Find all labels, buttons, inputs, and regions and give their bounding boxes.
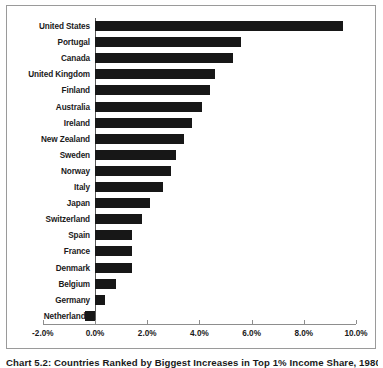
bar-row: Belgium <box>7 276 375 292</box>
tick-mark <box>356 320 357 324</box>
bar-row: Finland <box>7 82 375 98</box>
category-label: Germany <box>55 295 90 304</box>
bar-row: Italy <box>7 179 375 195</box>
x-tick-label: 4.0% <box>190 329 209 338</box>
category-label: Japan <box>67 199 90 208</box>
bar-row: Ireland <box>7 115 375 131</box>
bar <box>95 37 241 47</box>
category-label: New Zealand <box>41 134 90 143</box>
tick-mark <box>304 320 305 324</box>
bar-row: Japan <box>7 195 375 211</box>
tick-mark <box>199 320 200 324</box>
category-label: Netherlands <box>44 311 90 320</box>
x-tick-label: 2.0% <box>138 329 157 338</box>
category-label: Spain <box>68 231 90 240</box>
x-tick-label: 6.0% <box>242 329 261 338</box>
chart-figure: United StatesPortugalCanadaUnited Kingdo… <box>0 0 383 368</box>
bar <box>95 21 343 31</box>
category-label: Denmark <box>56 263 90 272</box>
bar-row: Canada <box>7 50 375 66</box>
bar <box>95 230 132 240</box>
bar-row: France <box>7 243 375 259</box>
category-label: France <box>64 247 90 256</box>
plot-area: United StatesPortugalCanadaUnited Kingdo… <box>7 6 375 348</box>
bar <box>95 118 192 128</box>
bar-row: Norway <box>7 163 375 179</box>
bar-row: New Zealand <box>7 131 375 147</box>
bar-row: Portugal <box>7 34 375 50</box>
category-label: Switzerland <box>46 215 90 224</box>
chart-frame: United StatesPortugalCanadaUnited Kingdo… <box>6 5 376 349</box>
bar <box>95 134 184 144</box>
tick-mark <box>95 320 96 324</box>
bar <box>95 279 116 289</box>
bar <box>95 166 171 176</box>
bar <box>95 295 105 305</box>
bar <box>95 246 132 256</box>
category-label: Norway <box>61 166 90 175</box>
category-label: Belgium <box>58 279 90 288</box>
bar-row: Netherlands <box>7 308 375 324</box>
bar <box>95 69 215 79</box>
tick-mark <box>147 320 148 324</box>
bar <box>85 311 95 321</box>
bar <box>95 214 142 224</box>
tick-mark <box>43 320 44 324</box>
bar <box>95 85 210 95</box>
category-label: Canada <box>61 54 90 63</box>
bar-row: Australia <box>7 99 375 115</box>
category-label: Portugal <box>58 38 90 47</box>
x-tick-label: 8.0% <box>294 329 313 338</box>
bar-row: Switzerland <box>7 211 375 227</box>
chart-caption: Chart 5.2: Countries Ranked by Biggest I… <box>6 357 378 368</box>
bar <box>95 198 150 208</box>
bar <box>95 150 176 160</box>
bar-row: Spain <box>7 227 375 243</box>
x-axis-line <box>43 324 356 325</box>
bar-row: Germany <box>7 292 375 308</box>
bar <box>95 53 233 63</box>
bar <box>95 102 202 112</box>
category-label: Ireland <box>64 118 90 127</box>
bar <box>95 182 163 192</box>
bar-row: United Kingdom <box>7 66 375 82</box>
category-label: Australia <box>56 102 90 111</box>
bar-row: United States <box>7 18 375 34</box>
category-label: Sweden <box>60 150 90 159</box>
tick-mark <box>252 320 253 324</box>
bar-row: Sweden <box>7 147 375 163</box>
x-tick-label: -2.0% <box>32 329 53 338</box>
bar-row: Denmark <box>7 260 375 276</box>
category-label: United States <box>39 22 90 31</box>
category-label: United Kingdom <box>28 70 90 79</box>
x-tick-label: 10.0% <box>344 329 367 338</box>
category-label: Italy <box>74 183 90 192</box>
bar <box>95 263 132 273</box>
x-tick-label: 0.0% <box>86 329 105 338</box>
category-label: Finland <box>62 86 90 95</box>
